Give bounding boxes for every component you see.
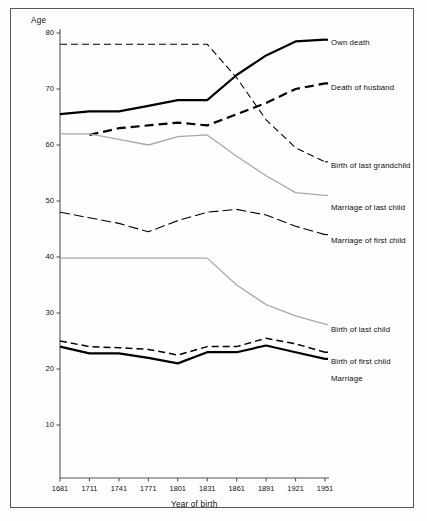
y-tick-10: 10: [34, 420, 54, 429]
series-marriage: [60, 345, 328, 363]
series-label-marriage: Marriage: [331, 374, 363, 383]
y-tick-60: 60: [34, 140, 54, 149]
y-tick-20: 20: [34, 364, 54, 373]
y-tick-50: 50: [34, 196, 54, 205]
y-tick-40: 40: [34, 252, 54, 261]
series-label-birth-of-last-grandchild: Birth of last grandchild: [331, 161, 411, 170]
series-own-death: [60, 40, 328, 114]
series-label-death-of-husband: Death of husband: [331, 83, 394, 92]
series-birth-of-last-child: [60, 258, 328, 324]
figure-container: Age Year of birth 1020304050607080 16811…: [0, 0, 427, 521]
series-birth-of-last-grandchild: [60, 44, 328, 162]
y-tick-70: 70: [34, 84, 54, 93]
series-label-birth-of-first-child: Birth of first child: [331, 357, 391, 366]
series-label-marriage-of-last-child: Marriage of last child: [331, 203, 405, 212]
y-tick-80: 80: [34, 28, 54, 37]
series-label-marriage-of-first-child: Marriage of first child: [331, 236, 406, 245]
line-chart-plot: [0, 0, 427, 521]
series-label-birth-of-last-child: Birth of last child: [331, 325, 390, 334]
x-tick-1951: 1951: [308, 484, 342, 493]
y-tick-30: 30: [34, 308, 54, 317]
series-label-own-death: Own death: [331, 38, 370, 47]
series-marriage-of-last-child: [60, 134, 328, 196]
series-marriage-of-first-child: [60, 209, 328, 234]
